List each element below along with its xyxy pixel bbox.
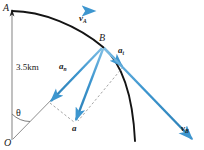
vector-label-vB: vB	[181, 124, 189, 133]
theta-angle-arc	[12, 114, 30, 122]
radius-OA-line	[10, 9, 15, 140]
vector-label-a-base: a	[72, 123, 77, 133]
vector-label-an: an	[59, 62, 67, 71]
point-label-B: B	[99, 33, 105, 43]
vector-label-vA-sub: A	[83, 18, 87, 24]
point-label-A: A	[3, 3, 9, 13]
vector-label-at-base: a	[118, 45, 123, 55]
vector-label-an-base: a	[59, 61, 64, 71]
dimension-label-radius: 3.5km	[16, 63, 39, 72]
vector-label-vA: vA	[79, 14, 87, 23]
vector-label-a: a	[72, 124, 77, 133]
vector-diagram-svg	[0, 0, 204, 150]
vector-label-an-sub: n	[64, 66, 67, 72]
point-label-O: O	[4, 138, 11, 148]
vector-label-at: at	[118, 46, 124, 55]
angle-label-theta: θ	[16, 108, 21, 118]
vector-vB-arrow	[104, 48, 192, 139]
figure-canvas: A B O 3.5km θ vA an at a vB	[0, 0, 204, 150]
vector-label-vB-sub: B	[185, 128, 189, 134]
vector-label-at-sub: t	[123, 50, 125, 56]
